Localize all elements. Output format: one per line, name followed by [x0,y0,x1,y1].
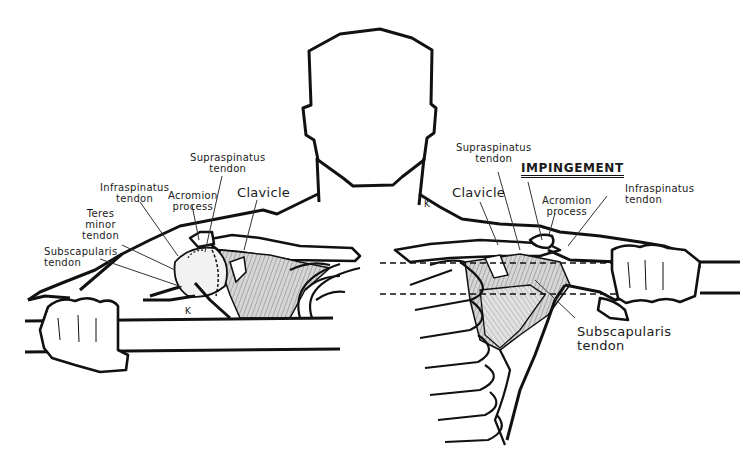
right-bar [700,262,740,293]
label-teres-minor-left: Teres minor tendon [82,208,119,241]
label-infraspinatus-right: Infraspinatus tendon [625,183,694,205]
label-subscapularis-left: Subscapularis tendon [44,246,117,268]
left-fist [40,298,128,372]
head-outline [303,29,436,186]
label-acromion-left: Acromion process [168,190,218,212]
label-subscapularis-right: Subscapularis tendon [577,325,671,353]
label-infraspinatus-left: Infraspinatus tendon [100,182,169,204]
right-fist [598,245,700,320]
label-supraspinatus-right: Supraspinatus tendon [456,142,531,164]
label-acromion-right: Acromion process [542,195,592,217]
figure-title: IMPINGEMENT [521,163,624,178]
artist-signature-neck: K [424,199,430,210]
label-supraspinatus-left: Supraspinatus tendon [190,152,265,174]
artist-signature-arm: K [185,306,191,317]
label-clavicle-right: Clavicle [452,186,505,200]
label-clavicle-left: Clavicle [237,186,290,200]
